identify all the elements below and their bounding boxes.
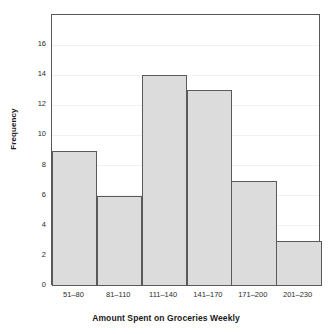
histogram-bar [97, 196, 142, 286]
x-tick-label: 51–80 [51, 290, 96, 299]
x-tick-label: 111–140 [141, 290, 186, 299]
y-axis-title: Frequency [9, 89, 19, 169]
histogram-chart: Frequency 0246810121416 51–8081–110111–1… [0, 0, 332, 334]
y-tick-label: 12 [24, 100, 46, 108]
y-tick-label: 8 [24, 161, 46, 169]
x-tick-label: 171–200 [230, 290, 275, 299]
y-tick-label: 2 [24, 251, 46, 259]
x-tick-label: 81–110 [96, 290, 141, 299]
y-tick-label: 10 [24, 130, 46, 138]
plot-area [51, 14, 320, 285]
histogram-bar [276, 241, 321, 286]
x-tick-label: 201–230 [275, 290, 320, 299]
y-tick-label: 14 [24, 70, 46, 78]
histogram-bar [231, 181, 276, 286]
y-tick-label: 16 [24, 40, 46, 48]
x-tick-label: 141–170 [186, 290, 231, 299]
histogram-bar [142, 75, 187, 286]
histogram-bar [52, 151, 97, 287]
histogram-bar [187, 90, 232, 286]
plot-inner [52, 15, 319, 284]
gridline [52, 45, 319, 46]
y-tick-label: 6 [24, 191, 46, 199]
y-tick-label: 0 [24, 281, 46, 289]
x-axis-title: Amount Spent on Groceries Weekly [0, 313, 332, 323]
y-tick-label: 4 [24, 221, 46, 229]
